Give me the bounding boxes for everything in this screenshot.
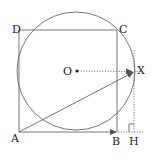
label-x: X xyxy=(137,64,145,77)
label-b: B xyxy=(112,135,120,148)
label-h: H xyxy=(129,135,139,148)
vector-ax xyxy=(19,73,133,133)
point-o xyxy=(75,69,78,72)
label-d: D xyxy=(12,23,21,36)
vector-ox-dotted xyxy=(78,71,132,72)
geometry-diagram: D C O X A B H xyxy=(0,0,160,166)
label-c: C xyxy=(119,23,127,36)
label-o: O xyxy=(63,65,72,78)
right-angle-mark xyxy=(129,124,134,132)
label-a: A xyxy=(10,132,20,145)
